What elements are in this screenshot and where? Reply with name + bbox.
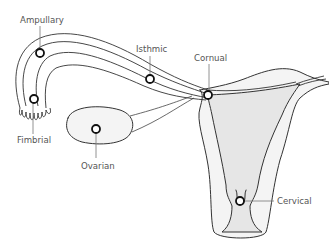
ovarian-label: Ovarian bbox=[81, 161, 115, 171]
cervical-marker bbox=[236, 197, 244, 205]
ampullary-marker bbox=[36, 49, 44, 57]
ovarian-ligament bbox=[130, 96, 194, 132]
ectopic-sites-diagram: Ampullary Isthmic Cornual Fimbrial Ovari… bbox=[0, 0, 329, 247]
isthmic-marker bbox=[146, 75, 154, 83]
ovarian-marker bbox=[92, 125, 100, 133]
fimbrial-marker bbox=[30, 95, 38, 103]
ovary bbox=[67, 96, 194, 144]
ovary-outline bbox=[67, 107, 133, 144]
ampullary-label: Ampullary bbox=[20, 15, 64, 25]
cornual-marker bbox=[204, 91, 212, 99]
cervical-label: Cervical bbox=[277, 196, 312, 206]
isthmic-label: Isthmic bbox=[136, 44, 168, 54]
fimbriae bbox=[19, 108, 50, 120]
fimbrial-label: Fimbrial bbox=[17, 135, 51, 145]
tube-lower-wall bbox=[45, 65, 206, 108]
tube-inner-wall-2 bbox=[36, 52, 208, 106]
cornual-label: Cornual bbox=[194, 53, 227, 63]
uterus bbox=[199, 69, 329, 238]
